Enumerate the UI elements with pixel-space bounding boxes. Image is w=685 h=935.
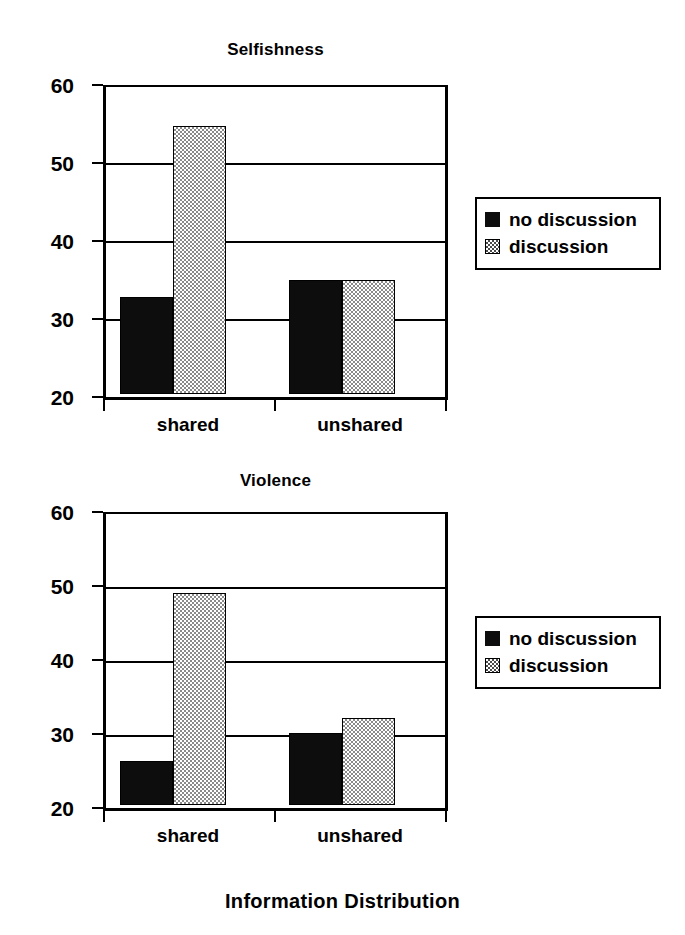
bar-shared-discussion[interactable] (173, 593, 226, 805)
bar-group-shared (109, 516, 279, 805)
x-tick-left (103, 400, 105, 411)
legend-item-no-discussion[interactable]: no discussion (485, 206, 649, 233)
legend-item-no-discussion[interactable]: no discussion (485, 625, 649, 652)
bar-shared-no-discussion[interactable] (120, 297, 173, 394)
x-tick-label-unshared: unshared (317, 825, 403, 847)
y-tick-mark-30 (92, 733, 103, 735)
y-tick-label-20: 20 (30, 798, 74, 819)
x-tick-label-shared: shared (157, 825, 219, 847)
y-tick-mark-40 (92, 240, 103, 242)
chart-title: Violence (103, 471, 448, 491)
bar-group-unshared (278, 89, 448, 394)
x-tick-right (445, 400, 447, 411)
y-tick-mark-20 (92, 807, 103, 809)
axis-caption-information-distribution: Information Distribution (0, 890, 685, 913)
figure-canvas: Selfishness 60 50 40 30 20 (0, 0, 685, 935)
chart-title: Selfishness (103, 40, 448, 60)
x-tick-left (103, 811, 105, 822)
y-tick-mark-50 (92, 162, 103, 164)
bars-layer (109, 89, 442, 394)
legend-swatch-black-icon (485, 212, 500, 227)
legend-item-discussion[interactable]: discussion (485, 233, 649, 260)
y-tick-label-60: 60 (30, 502, 74, 523)
y-tick-mark-60 (92, 84, 103, 86)
y-tick-mark-50 (92, 585, 103, 587)
y-tick-label-50: 50 (30, 576, 74, 597)
legend-label-discussion: discussion (509, 656, 608, 675)
bar-shared-discussion[interactable] (173, 126, 226, 394)
legend-swatch-hatch-icon (485, 239, 500, 254)
y-tick-label-50: 50 (30, 153, 74, 174)
bar-unshared-discussion[interactable] (342, 718, 395, 805)
x-tick-label-shared: shared (157, 414, 219, 436)
y-tick-mark-20 (92, 396, 103, 398)
x-tick-right (445, 811, 447, 822)
x-tick-middle (274, 400, 276, 411)
bar-unshared-no-discussion[interactable] (289, 733, 342, 805)
x-tick-middle (274, 811, 276, 822)
legend-label-no-discussion: no discussion (509, 210, 637, 229)
bar-group-shared (109, 89, 279, 394)
bar-shared-no-discussion[interactable] (120, 761, 173, 805)
y-tick-label-60: 60 (30, 75, 74, 96)
legend-label-no-discussion: no discussion (509, 629, 637, 648)
legend: no discussion discussion (475, 197, 661, 270)
legend: no discussion discussion (475, 616, 661, 689)
y-tick-label-40: 40 (30, 231, 74, 252)
y-tick-label-40: 40 (30, 650, 74, 671)
legend-label-discussion: discussion (509, 237, 608, 256)
plot-area (103, 512, 448, 811)
y-tick-label-30: 30 (30, 309, 74, 330)
y-tick-label-20: 20 (30, 387, 74, 408)
plot-area (103, 85, 448, 400)
y-tick-mark-60 (92, 511, 103, 513)
legend-item-discussion[interactable]: discussion (485, 652, 649, 679)
legend-swatch-hatch-icon (485, 658, 500, 673)
y-tick-label-30: 30 (30, 724, 74, 745)
legend-swatch-black-icon (485, 631, 500, 646)
bar-unshared-discussion[interactable] (342, 280, 395, 394)
y-tick-mark-40 (92, 659, 103, 661)
bar-group-unshared (278, 516, 448, 805)
x-tick-label-unshared: unshared (317, 414, 403, 436)
y-tick-mark-30 (92, 318, 103, 320)
bar-unshared-no-discussion[interactable] (289, 280, 342, 394)
bars-layer (109, 516, 442, 805)
